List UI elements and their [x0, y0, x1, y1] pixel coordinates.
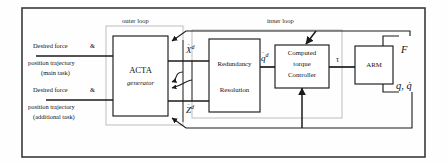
z-ddot-marks: ¨ [187, 103, 189, 109]
controller-block-line3: Controller [275, 71, 329, 79]
controller-annotation-arrow [306, 31, 316, 44]
redundancy-block-outline [209, 39, 260, 112]
acta-internal-feedback-path [172, 72, 192, 88]
joint-state-feedback-path [172, 92, 412, 128]
inner-loop-label: inner loop [267, 17, 294, 24]
diagram-vector-layer [0, 0, 447, 165]
redundancy-block-line2: Resolution [206, 86, 263, 94]
redundancy-block-line1: Redundancy [206, 60, 263, 68]
additional-task-line1: Desired force [33, 86, 68, 93]
q-ddot-marks: ¨ [262, 51, 264, 57]
additional-task-line3: (additional task) [33, 113, 75, 120]
tau-signal-label: τ [336, 56, 339, 65]
main-task-line3: (main task) [41, 69, 70, 76]
additional-task-line2: position trajectory [28, 103, 75, 110]
arm-block-title: ARM [355, 61, 393, 69]
x-ddot-d-signal-label: ¨Xd [186, 44, 194, 55]
joint-state-output-label: q, q̇ [396, 80, 412, 92]
acta-block-title: ACTA [113, 66, 168, 76]
joint-qdot-label: q̇ [407, 80, 412, 91]
q-ddot-d-signal-label: ¨qd [261, 52, 268, 63]
controller-block-line2: torque [275, 60, 329, 68]
acta-block-outline [113, 36, 168, 116]
block-diagram-figure: outer loop inner loop Desired force & po… [0, 0, 447, 165]
z-ddot-d-signal-label: ¨Zd [186, 104, 194, 115]
z-ddot-sup: d [191, 104, 194, 110]
force-output-line [383, 36, 399, 46]
force-feedback-path [172, 31, 410, 41]
controller-block-line1: Computed [275, 49, 329, 57]
x-ddot-marks: ¨ [188, 43, 190, 49]
outer-loop-label: outer loop [122, 17, 149, 24]
acta-block-subtitle: generator [113, 79, 168, 87]
force-output-label: F [401, 44, 407, 56]
additional-task-amp: & [90, 86, 95, 93]
main-task-line2: position trajectory [28, 59, 75, 66]
main-task-line1: Desired force [33, 42, 68, 49]
main-task-amp: & [90, 42, 95, 49]
